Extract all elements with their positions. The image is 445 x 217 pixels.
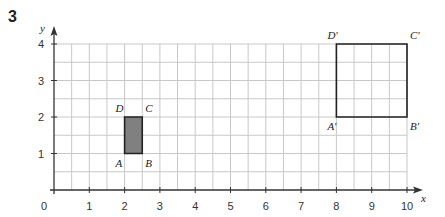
axes xyxy=(50,26,423,194)
y-tick-label: 2 xyxy=(38,111,44,123)
x-axis-label: x xyxy=(420,192,426,204)
x-tick-label: 6 xyxy=(263,200,269,212)
y-tick-label: 4 xyxy=(38,38,44,50)
origin-label: 0 xyxy=(41,200,47,212)
x-tick-label: 1 xyxy=(86,200,92,212)
y-tick-label: 3 xyxy=(38,75,44,87)
vertex-label: A xyxy=(115,157,123,169)
x-tick-label: 4 xyxy=(192,200,198,212)
vertex-label: B xyxy=(145,157,152,169)
vertex-label: B' xyxy=(410,120,420,132)
x-tick-label: 5 xyxy=(227,200,233,212)
x-tick-label: 3 xyxy=(157,200,163,212)
rectangle-abcd xyxy=(125,117,143,154)
x-tick-label: 8 xyxy=(333,200,339,212)
vertex-label: A' xyxy=(326,120,337,132)
y-tick-label: 1 xyxy=(38,148,44,160)
x-tick-label: 10 xyxy=(401,200,413,212)
vertex-label: D' xyxy=(326,29,338,41)
x-tick-label: 7 xyxy=(298,200,304,212)
vertex-label: C' xyxy=(410,29,420,41)
vertex-label: D xyxy=(115,102,124,114)
x-tick-label: 9 xyxy=(369,200,375,212)
vertex-label: C xyxy=(145,102,153,114)
x-tick-label: 2 xyxy=(122,200,128,212)
coordinate-grid: 1234567891012340xy ABCDA'B'C'D' xyxy=(0,0,445,217)
y-axis-label: y xyxy=(39,22,45,34)
